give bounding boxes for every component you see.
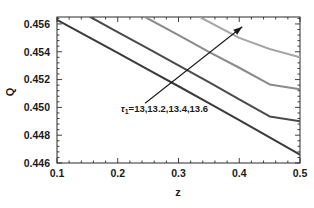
y-tick-label: 0.452 (24, 73, 50, 85)
x-tick-label: 0.5 (293, 167, 308, 179)
y-tick-label: 0.456 (24, 18, 50, 30)
x-tick-label: 0.2 (110, 167, 125, 179)
parameter-annotation: τ1=13,13.2,13.4,13.6 (121, 103, 208, 116)
y-tick-label: 0.448 (24, 129, 50, 141)
chart-figure: 0.10.20.30.40.5 0.4460.4480.4500.4520.45… (0, 0, 314, 208)
chart-svg: 0.10.20.30.40.5 0.4460.4480.4500.4520.45… (0, 0, 314, 208)
y-tick-label: 0.446 (24, 157, 50, 169)
x-tick-label: 0.3 (171, 167, 186, 179)
y-tick-label: 0.454 (24, 46, 50, 58)
y-axis-title: Q (4, 87, 16, 96)
y-tick-label: 0.450 (24, 101, 50, 113)
x-axis-title: z (175, 186, 181, 198)
x-tick-label: 0.1 (50, 167, 65, 179)
x-tick-label: 0.4 (232, 167, 247, 179)
